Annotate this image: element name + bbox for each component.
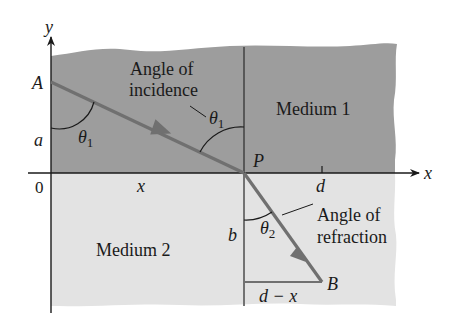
refraction-annotation-line1: Angle of	[317, 205, 380, 225]
length-b-label: b	[228, 225, 237, 245]
origin-label: 0	[35, 178, 44, 197]
length-x-label: x	[136, 176, 145, 196]
incidence-annotation-line1: Angle of	[130, 59, 193, 79]
medium-1-label: Medium 1	[276, 99, 351, 119]
point-p-label: P	[252, 151, 264, 171]
refraction-diagram: y x 0 A P B a x d b d − x θ1 θ1 θ2 Mediu…	[0, 0, 458, 326]
y-axis-label: y	[43, 17, 53, 37]
medium-2-label: Medium 2	[96, 240, 171, 260]
length-d-minus-x-label: d − x	[259, 286, 297, 306]
length-a-label: a	[34, 130, 43, 150]
refraction-annotation-line2: refraction	[317, 227, 387, 247]
point-b-label: B	[327, 274, 338, 294]
point-a-label: A	[31, 73, 44, 93]
x-axis-label: x	[423, 163, 432, 183]
length-d-label: d	[316, 176, 326, 196]
incidence-annotation-line2: incidence	[129, 80, 198, 100]
